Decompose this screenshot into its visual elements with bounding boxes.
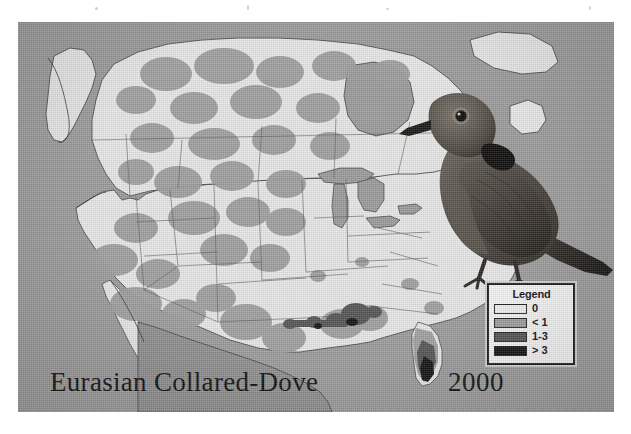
legend-swatch-zero bbox=[494, 304, 527, 314]
distribution-map-figure: Legend 0 < 1 1-3 > 3 Eurasian Collared-D… bbox=[18, 22, 614, 412]
map-legend: Legend 0 < 1 1-3 > 3 bbox=[487, 283, 575, 365]
species-title: Eurasian Collared-Dove bbox=[50, 367, 318, 398]
bird-eye bbox=[456, 111, 467, 122]
legend-swatch-under-one bbox=[494, 318, 527, 328]
legend-label: 1-3 bbox=[532, 331, 548, 342]
legend-row: 0 bbox=[494, 302, 569, 315]
legend-row: > 3 bbox=[494, 344, 569, 357]
legend-title: Legend bbox=[494, 288, 569, 300]
legend-label: 0 bbox=[532, 303, 538, 314]
legend-label: < 1 bbox=[532, 317, 548, 328]
legend-label: > 3 bbox=[532, 345, 548, 356]
legend-swatch-one-to-three bbox=[494, 332, 527, 342]
year-label: 2000 bbox=[448, 367, 504, 398]
scan-artifact-strip bbox=[0, 0, 631, 20]
legend-swatch-over-three bbox=[494, 346, 527, 356]
bird-beak bbox=[399, 120, 431, 136]
bird-eye-glint bbox=[457, 112, 460, 115]
legend-row: 1-3 bbox=[494, 330, 569, 343]
dove-bird-photo bbox=[389, 80, 614, 295]
legend-row: < 1 bbox=[494, 316, 569, 329]
